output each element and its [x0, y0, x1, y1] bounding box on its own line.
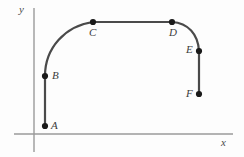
point-marker-d: [169, 19, 175, 25]
point-label-c: C: [89, 27, 96, 38]
x-axis-label: x: [221, 137, 226, 148]
figure-container: y x A B C D E F: [0, 0, 244, 157]
point-marker-a: [42, 123, 48, 129]
point-label-b: B: [52, 70, 59, 81]
point-marker-f: [196, 91, 202, 97]
point-label-d: D: [169, 27, 177, 38]
point-label-e: E: [186, 44, 193, 55]
point-label-a: A: [51, 120, 58, 131]
curve-plot: [0, 0, 244, 157]
y-axis-label: y: [19, 4, 24, 15]
point-marker-e: [196, 48, 202, 54]
point-marker-c: [90, 19, 96, 25]
point-label-f: F: [186, 88, 193, 99]
point-marker-b: [42, 73, 48, 79]
